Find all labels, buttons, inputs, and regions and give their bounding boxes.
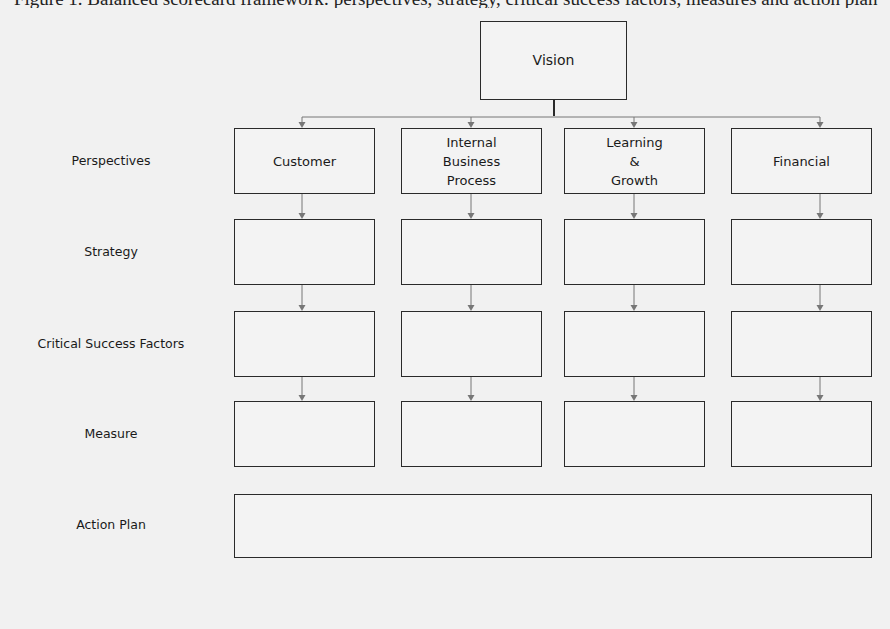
measure-box-learning-growth (564, 401, 705, 467)
csf-box-internal-business-process (401, 311, 542, 377)
row-label-critical-success-factors: Critical Success Factors (0, 336, 222, 351)
strategy-box-customer (234, 219, 375, 285)
perspective-label: Customer (273, 152, 336, 171)
csf-box-customer (234, 311, 375, 377)
csf-box-financial (731, 311, 872, 377)
perspective-box-internal-business-process: Internal Business Process (401, 128, 542, 194)
row-label-measure: Measure (0, 426, 222, 441)
perspective-box-financial: Financial (731, 128, 872, 194)
perspective-box-customer: Customer (234, 128, 375, 194)
vision-box: Vision (480, 21, 627, 100)
measure-box-customer (234, 401, 375, 467)
perspective-box-learning-growth: Learning & Growth (564, 128, 705, 194)
row-label-action-plan: Action Plan (0, 517, 222, 532)
perspective-label: Internal Business Process (443, 133, 500, 190)
row-label-strategy: Strategy (0, 244, 222, 259)
strategy-box-internal-business-process (401, 219, 542, 285)
measure-box-financial (731, 401, 872, 467)
measure-box-internal-business-process (401, 401, 542, 467)
csf-box-learning-growth (564, 311, 705, 377)
perspective-label: Learning & Growth (606, 133, 662, 190)
strategy-box-financial (731, 219, 872, 285)
vision-label: Vision (533, 51, 575, 70)
strategy-box-learning-growth (564, 219, 705, 285)
action-plan-box (234, 494, 872, 558)
row-label-perspectives: Perspectives (0, 153, 222, 168)
perspective-label: Financial (773, 152, 830, 171)
